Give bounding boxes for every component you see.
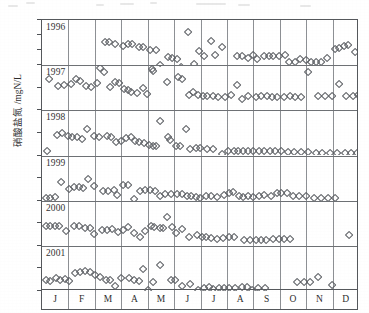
month-label-J-5: J (174, 294, 200, 305)
data-point (182, 125, 191, 134)
data-point (227, 91, 236, 100)
year-panel-1998: 1998 (42, 110, 357, 155)
data-point (90, 181, 99, 190)
data-point (155, 261, 164, 270)
data-point (124, 181, 133, 190)
month-label-M-4: M (148, 294, 174, 305)
data-point (143, 90, 152, 99)
data-point (218, 43, 227, 52)
month-label-D-11: D (333, 294, 359, 305)
data-point (132, 89, 141, 98)
year-label: 1997 (46, 67, 65, 77)
data-point (176, 142, 185, 151)
month-label-M-2: M (95, 294, 121, 305)
data-point (162, 78, 171, 87)
data-point (113, 191, 122, 200)
data-point (155, 116, 164, 125)
data-point (163, 213, 172, 222)
year-panel-1997: 1997 (42, 65, 357, 110)
x-axis-band: JFMAMJJASOND (41, 290, 358, 310)
data-point (233, 81, 242, 90)
month-label-J-6: J (201, 294, 227, 305)
data-point (211, 50, 220, 59)
data-point (79, 184, 88, 193)
year-label: 1996 (46, 22, 65, 32)
plot-area: 199619971998199920002001 (41, 19, 358, 290)
data-point (43, 146, 52, 155)
year-label: 2001 (46, 248, 65, 258)
month-label-A-7: A (227, 294, 253, 305)
data-point (304, 68, 313, 77)
year-panel-2000: 2000 (42, 201, 357, 246)
month-label-F-1: F (68, 294, 94, 305)
data-point (353, 149, 357, 156)
data-point (183, 28, 192, 37)
data-point (64, 277, 73, 286)
year-label: 2000 (46, 203, 65, 213)
data-point (78, 135, 87, 144)
year-panel-1999: 1999 (42, 156, 357, 201)
data-point (230, 233, 239, 242)
data-point (178, 75, 187, 84)
month-label-O-9: O (280, 294, 306, 305)
year-label: 1998 (46, 112, 65, 122)
data-point (301, 192, 310, 201)
data-point (83, 125, 92, 134)
data-point (306, 278, 315, 287)
data-point (208, 144, 217, 153)
data-point (206, 37, 215, 46)
year-label: 1999 (46, 158, 65, 168)
data-point (186, 279, 195, 288)
year-panel-1996: 1996 (42, 20, 357, 65)
data-point (138, 265, 147, 274)
data-point (331, 194, 340, 201)
data-point (100, 68, 109, 77)
data-point (117, 274, 126, 283)
data-point (155, 65, 164, 67)
data-point (328, 280, 337, 289)
data-point (84, 175, 93, 184)
data-point (286, 235, 295, 244)
data-point (110, 40, 119, 49)
data-point (62, 227, 71, 236)
data-point (335, 79, 344, 88)
data-point (152, 46, 161, 55)
data-point (314, 272, 323, 281)
month-label-N-10: N (306, 294, 332, 305)
month-label-A-3: A (121, 294, 147, 305)
data-point (297, 92, 306, 101)
data-point (149, 277, 158, 286)
y-axis-tick-group: 05101505100510051005100510 (0, 0, 41, 313)
data-point (345, 230, 354, 239)
scan-artifact-row (0, 2, 369, 9)
figure-container: 硝酸盐氮 /mgN/L 05101505100510051005100510 1… (0, 0, 369, 313)
data-point (351, 48, 357, 57)
month-label-S-8: S (253, 294, 279, 305)
year-panel-2001: 2001 (42, 246, 357, 291)
data-point (57, 177, 66, 186)
data-point (328, 92, 337, 101)
month-label-J-0: J (42, 294, 68, 305)
